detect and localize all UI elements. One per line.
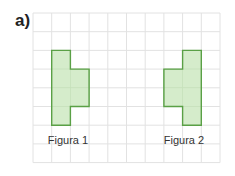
grid-diagram: Figura 1 Figura 2	[0, 0, 235, 176]
figure-1-label: Figura 1	[48, 134, 88, 146]
figure-2: Figura 2	[164, 50, 204, 146]
figure-2-label: Figura 2	[164, 134, 204, 146]
figure-1: Figura 1	[48, 50, 89, 146]
